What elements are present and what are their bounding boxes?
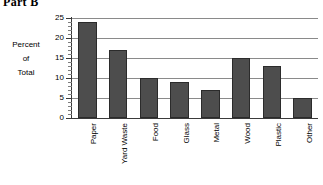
y-tick-label-25: 25 — [4, 14, 64, 22]
y-minor-tick-6 — [68, 94, 72, 95]
y-minor-tick-17 — [68, 50, 72, 51]
y-tick-10 — [66, 78, 72, 79]
y-tick-25 — [66, 18, 72, 19]
x-tick-label-text: Plastic — [275, 123, 283, 147]
bar-glass[interactable] — [170, 82, 188, 118]
y-minor-tick-19 — [68, 42, 72, 43]
y-minor-tick-7 — [68, 90, 72, 91]
gridline-20 — [72, 38, 318, 39]
y-minor-tick-23 — [68, 26, 72, 27]
y-minor-tick-11 — [68, 74, 72, 75]
y-minor-tick-8 — [68, 86, 72, 87]
bar-metal[interactable] — [201, 90, 219, 118]
y-minor-tick-16 — [68, 54, 72, 55]
y-minor-tick-24 — [68, 22, 72, 23]
y-minor-tick-1 — [68, 114, 72, 115]
x-tick-label-text: Metal — [213, 123, 221, 143]
x-tick-label-yard-waste: Yard Waste — [121, 121, 129, 162]
y-tick-0 — [66, 118, 72, 119]
y-minor-tick-9 — [68, 82, 72, 83]
y-minor-tick-12 — [68, 70, 72, 71]
gridline-25 — [72, 18, 318, 19]
x-tick-label-food: Food — [152, 121, 160, 139]
x-axis-tick-labels: PaperYard WasteFoodGlassMetalWoodPlastic… — [72, 121, 318, 185]
bar-plastic[interactable] — [263, 66, 281, 118]
x-tick-label-text: Food — [152, 123, 160, 141]
y-minor-tick-4 — [68, 102, 72, 103]
y-minor-tick-21 — [68, 34, 72, 35]
y-tick-20 — [66, 38, 72, 39]
y-tick-5 — [66, 98, 72, 99]
x-tick-label-paper: Paper — [90, 121, 98, 142]
y-minor-tick-22 — [68, 30, 72, 31]
x-tick-label-glass: Glass — [183, 121, 191, 141]
bar-other[interactable] — [293, 98, 311, 118]
y-tick-15 — [66, 58, 72, 59]
y-tick-label-20: 20 — [4, 34, 64, 42]
gridline-0 — [72, 118, 318, 119]
y-minor-tick-14 — [68, 62, 72, 63]
y-minor-tick-2 — [68, 110, 72, 111]
bar-chart-figure: Part B Percent of Total 0510152025 Paper… — [0, 0, 323, 185]
y-minor-tick-3 — [68, 106, 72, 107]
x-tick-label-text: Wood — [244, 123, 252, 144]
x-tick-label-plastic: Plastic — [275, 121, 283, 145]
x-tick-label-text: Other — [306, 123, 314, 143]
y-tick-label-15: 15 — [4, 54, 64, 62]
y-tick-label-5: 5 — [4, 94, 64, 102]
x-tick-label-wood: Wood — [244, 121, 252, 142]
bar-yard-waste[interactable] — [109, 50, 127, 118]
bar-paper[interactable] — [78, 22, 96, 118]
y-tick-label-0: 0 — [4, 114, 64, 122]
y-tick-label-10: 10 — [4, 74, 64, 82]
plot-area — [72, 18, 318, 118]
y-minor-tick-13 — [68, 66, 72, 67]
x-tick-label-text: Glass — [183, 123, 191, 143]
bar-wood[interactable] — [232, 58, 250, 118]
bar-food[interactable] — [140, 78, 158, 118]
y-minor-tick-18 — [68, 46, 72, 47]
y-axis-tick-labels: 0510152025 — [0, 0, 64, 185]
x-tick-label-text: Paper — [90, 123, 98, 144]
x-tick-label-other: Other — [306, 121, 314, 141]
x-tick-label-metal: Metal — [213, 121, 221, 141]
x-tick-label-text: Yard Waste — [121, 123, 129, 164]
